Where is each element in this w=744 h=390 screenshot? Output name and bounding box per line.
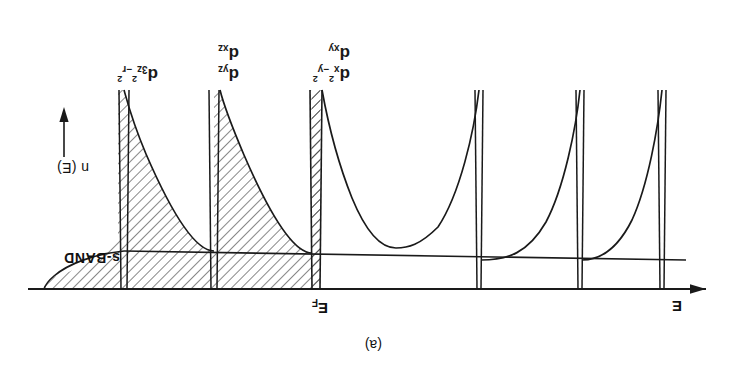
figure-stage: E EF s-BAND n (E) (a) dx2−y2 dxy dyz dxz… [0,0,744,390]
orbital-label-dxy: dxy [313,43,350,63]
fermi-level-subscript: F [312,297,318,308]
fermi-level-label: EF [312,297,328,316]
orbital-label-dyz: dyz [218,64,239,84]
orbital-label-group-eg-upper: dx2−y2 dxy [313,43,350,84]
orbital-label-group-t2g-middle: dyz dxz [218,43,239,84]
dos-axis-arrowhead [59,107,68,122]
orbital-label-dxz: dxz [218,43,239,63]
dos-axis-label: n (E) [57,161,89,175]
d-band-dos-curve [124,90,662,260]
dos-axis-arrow [59,107,68,157]
orbital-label-dx2-y2: dx2−y2 [313,64,350,84]
energy-axis-arrowhead [690,284,706,294]
orbital-label-d3z2-r2: d3z2−r2 [117,64,158,84]
fermi-level-symbol: E [318,300,328,317]
s-band-label: s-BAND [64,251,121,265]
orbital-label-group-eg-lower: d3z2−r2 [117,64,158,84]
energy-axis-label: E [671,299,682,314]
density-of-states-plot [0,0,744,390]
panel-label: (a) [365,338,382,352]
